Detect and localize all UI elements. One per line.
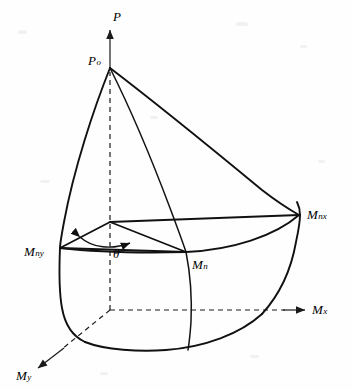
figure-root: P Po Mnx Mny Mn Mx My <box>0 0 352 389</box>
meridian-mid-mn-to-base <box>186 252 191 350</box>
interaction-surface-diagram: P Po Mnx Mny Mn Mx My <box>0 0 352 389</box>
surface-group <box>59 68 300 351</box>
label-group: P Po Mnx Mny Mn Mx My <box>15 9 327 383</box>
my-axis-arrow <box>38 348 64 368</box>
po-label-sub: o <box>96 57 101 67</box>
meridian-left-po-to-mny <box>60 68 110 248</box>
silhouette-left-lower <box>59 248 85 342</box>
theta-label: θ <box>113 246 120 261</box>
my-label: My <box>15 368 31 383</box>
radial-axis-to-mn <box>110 222 186 252</box>
theta-angle-group <box>80 237 130 247</box>
mnx-label-main: M <box>306 207 319 222</box>
mnx-label: Mnx <box>306 207 327 222</box>
po-label-main: P <box>87 53 96 68</box>
mn-label-main: M <box>191 257 204 272</box>
meridian-right-po-to-mnx <box>110 68 299 215</box>
base-contour-bottom <box>85 314 262 351</box>
mx-label-main: M <box>311 302 324 317</box>
meridian-mid-po-to-mn <box>110 68 186 252</box>
silhouette-right-lower <box>262 215 300 314</box>
po-label: Po <box>87 53 101 68</box>
p-axis-label: P <box>112 9 121 24</box>
mx-label-sub: x <box>322 306 327 316</box>
theta-arc <box>80 237 130 247</box>
my-label-sub: y <box>26 372 31 382</box>
radial-axis-to-mny <box>60 222 110 248</box>
mn-label-sub: n <box>203 261 208 271</box>
mny-label-main: M <box>23 244 36 259</box>
radial-axis-to-mnx <box>110 215 299 222</box>
axis-group <box>38 30 305 368</box>
mn-label: Mn <box>191 257 208 272</box>
my-label-main: M <box>15 368 28 383</box>
mx-label: Mx <box>311 302 327 317</box>
mnx-label-sub: nx <box>318 211 327 221</box>
mny-label-sub: ny <box>35 248 44 258</box>
mny-label: Mny <box>23 244 44 259</box>
